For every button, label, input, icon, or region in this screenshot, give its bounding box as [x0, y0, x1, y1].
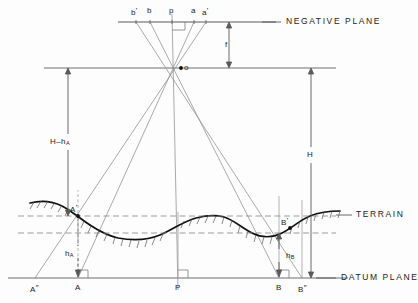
- label-ground-B: B: [276, 283, 282, 292]
- projection-rays: [35, 14, 302, 290]
- dim-HhA-arrow-top: [65, 68, 70, 74]
- label-ground-A: A: [75, 283, 81, 292]
- label-a: a: [191, 6, 196, 15]
- label-ground-P: P: [175, 283, 181, 292]
- dim-H-arrow-bottom: [308, 272, 313, 278]
- label-terrain: TERRAIN: [356, 209, 405, 219]
- label-negative-plane: NEGATIVE PLANE: [286, 16, 381, 26]
- marker-A-prime: [76, 214, 80, 218]
- dim-hB-arrow-bottom: [276, 270, 281, 277]
- dim-f-arrow-bottom: [226, 62, 231, 68]
- label-ground-A-double-prime: A″: [30, 283, 39, 294]
- marker-o: [179, 66, 183, 70]
- label-terrain-A-prime: A': [70, 203, 78, 214]
- label-H: H: [307, 150, 313, 159]
- ray-a-prime: [35, 22, 206, 278]
- label-ground-B-double-prime: B″: [298, 283, 307, 294]
- right-angle-markers-datum: [78, 270, 289, 278]
- label-perspective-center-o: o: [184, 63, 189, 72]
- label-b-prime: b': [131, 6, 138, 17]
- ray-b: [150, 22, 279, 278]
- point-markers: [76, 66, 292, 230]
- label-H-minus-hA: H–hA: [50, 137, 70, 146]
- optical-axis: [172, 14, 178, 290]
- label-b: b: [147, 6, 152, 15]
- label-terrain-B-prime: B': [281, 216, 289, 227]
- right-angle-marker-p: [172, 22, 185, 30]
- dimension-arrows: [65, 22, 313, 278]
- label-hB: hB: [286, 251, 295, 260]
- label-hA: hA: [65, 249, 74, 258]
- dim-H-arrow-top: [308, 68, 313, 74]
- right-angle-marker-P: [178, 270, 188, 278]
- label-focal-length-f: f: [225, 40, 228, 49]
- dim-f-arrow-top: [226, 22, 231, 28]
- label-p: p: [169, 6, 174, 15]
- label-a-prime: a': [202, 6, 209, 17]
- label-datum-plane: DATUM PLANE: [341, 272, 418, 282]
